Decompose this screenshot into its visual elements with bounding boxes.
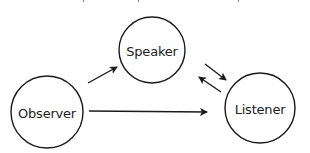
arrow-observer-to-speaker xyxy=(88,67,117,83)
listener-label: Listener xyxy=(235,102,286,117)
observer-label: Observer xyxy=(18,106,76,121)
arrow-listener-to-speaker xyxy=(199,77,221,92)
cutoff-text-descenders xyxy=(83,0,239,2)
diagram-graphics xyxy=(0,0,310,153)
speaker-label: Speaker xyxy=(126,44,177,59)
diagram-canvas: Speaker Observer Listener xyxy=(0,0,310,153)
arrow-observer-to-listener xyxy=(89,111,207,112)
arrow-speaker-to-listener xyxy=(205,64,226,80)
